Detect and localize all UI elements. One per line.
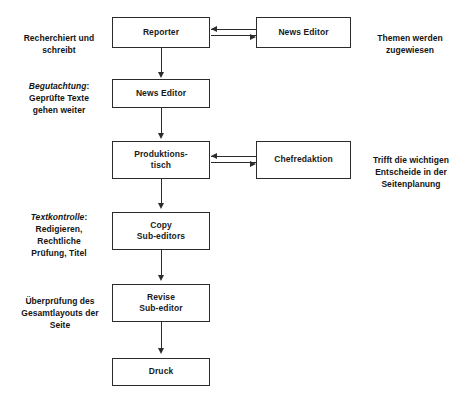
node-reporter-label: Reporter [141,27,181,38]
annotation-textkontrolle: Textkontrolle: Redigieren, Rechtliche Pr… [8,211,110,259]
arrow-down-icon [158,348,164,354]
edge-copy-to-revise [161,250,162,276]
edge-newseditor2-to-produktionstisch [161,108,162,134]
annotation-themen-text: Themen werden zugewiesen [377,33,442,55]
node-revise-subeditor[interactable]: Revise Sub-editor [112,284,210,322]
node-news-editor-1[interactable]: News Editor [256,17,351,48]
edge-produktionstisch-to-copy [161,179,162,204]
node-news-editor-2-label: News Editor [134,88,188,99]
edge-rule-top [211,156,256,157]
node-druck-label: Druck [147,366,176,377]
annotation-ueberpruefung-text: Überprüfung des Gesamtlayouts der Seite [21,296,98,330]
node-chefredaktion-label: Chefredaktion [272,154,334,165]
annotation-ueberpruefung: Überprüfung des Gesamtlayouts der Seite [6,283,114,331]
arrow-down-icon [158,72,164,78]
edge-reporter-newseditor1 [211,29,256,36]
node-revise-subeditor-label: Revise Sub-editor [137,292,185,314]
node-news-editor-1-label: News Editor [276,27,330,38]
node-news-editor-2[interactable]: News Editor [112,79,210,108]
annotation-begutachtung: Begutachtung: Geprüfte Texte gehen weite… [8,80,110,116]
node-druck[interactable]: Druck [112,358,210,386]
node-produktionstisch[interactable]: Produktions- tisch [112,141,210,179]
edge-reporter-to-newseditor2 [161,48,162,73]
node-produktionstisch-label: Produktions- tisch [132,149,190,171]
node-chefredaktion[interactable]: Chefredaktion [256,141,351,179]
annotation-recherchiert: Recherchiert und schreibt [8,20,110,56]
edge-rule-top [211,29,256,30]
annotation-entscheide-text: Trifft die wichtigen Entscheide in der S… [373,155,449,189]
arrow-down-icon [158,275,164,281]
arrow-left-icon [211,153,217,159]
node-copy-subeditors[interactable]: Copy Sub-editors [112,212,210,250]
node-copy-subeditors-label: Copy Sub-editors [135,220,187,242]
annotation-themen: Themen werden zugewiesen [360,20,460,56]
flowchart-canvas: Recherchiert und schreibt Reporter News … [0,0,465,404]
arrow-down-icon [158,203,164,209]
annotation-entscheide: Trifft die wichtigen Entscheide in der S… [360,142,462,190]
arrow-left-icon [211,26,217,32]
node-reporter[interactable]: Reporter [112,17,210,48]
annotation-begutachtung-emphasis: Begutachtung [29,81,87,91]
edge-produktionstisch-chefredaktion [211,156,256,163]
annotation-recherchiert-text: Recherchiert und schreibt [24,33,95,55]
arrow-down-icon [158,133,164,139]
annotation-textkontrolle-emphasis: Textkontrolle [31,212,85,222]
edge-revise-to-druck [161,322,162,349]
